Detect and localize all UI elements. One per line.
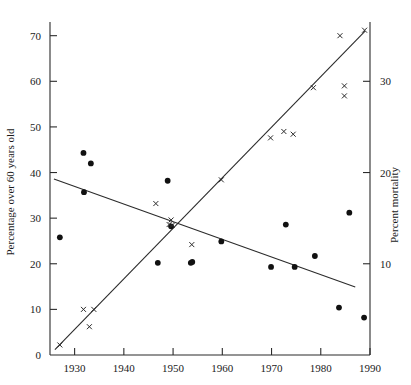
bottom-tick-label: 1960 (211, 362, 234, 374)
data-point-dot (292, 264, 298, 270)
bottom-tick-label: 1990 (359, 362, 382, 374)
bottom-tick-label: 1930 (64, 362, 87, 374)
data-point-dot (155, 260, 161, 266)
scatter-chart: 010203040506070 193019401950196019701980… (0, 0, 411, 385)
left-tick-label: 40 (30, 167, 42, 179)
data-point-dot (283, 222, 289, 228)
data-point-dot (57, 234, 63, 240)
right-axis-title: Percent mortality (388, 166, 400, 243)
right-tick-label: 10 (380, 258, 392, 270)
left-tick-label: 0 (36, 349, 42, 361)
data-point-dot (189, 259, 195, 265)
left-tick-label: 10 (30, 303, 42, 315)
bottom-tick-label: 1940 (113, 362, 136, 374)
bottom-tick-label: 1980 (310, 362, 333, 374)
chart-container: 010203040506070 193019401950196019701980… (0, 0, 411, 385)
left-tick-label: 20 (30, 258, 42, 270)
data-point-dot (361, 315, 367, 321)
data-point-dot (81, 189, 87, 195)
data-point-dot (312, 253, 318, 259)
left-tick-label: 30 (30, 212, 42, 224)
left-tick-label: 60 (30, 75, 42, 87)
data-point-dot (336, 305, 342, 311)
left-tick-label: 50 (30, 121, 42, 133)
data-point-dot (88, 161, 94, 167)
data-point-dot (268, 264, 274, 270)
data-point-dot (218, 239, 224, 245)
bottom-tick-label: 1970 (261, 362, 284, 374)
data-point-dot (165, 178, 171, 184)
bottom-tick-label: 1950 (162, 362, 185, 374)
left-axis-title: Percentage over 60 years old (4, 128, 16, 256)
chart-background (0, 0, 411, 385)
right-tick-label: 30 (380, 75, 392, 87)
data-point-dot (346, 210, 352, 216)
data-point-dot (81, 150, 87, 156)
left-tick-label: 70 (30, 30, 42, 42)
